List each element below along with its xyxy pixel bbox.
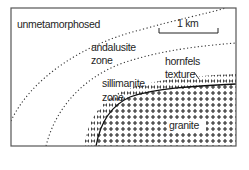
- label-sillimanite-zone: zone: [102, 91, 124, 103]
- label-unmetamorphosed: unmetamorphosed: [17, 18, 101, 30]
- label-texture: texture: [165, 68, 195, 80]
- scale-bar-label: 1 km: [177, 17, 199, 29]
- contact-metamorphism-diagram: unmetamorphosed andalusite zone silliman…: [0, 0, 249, 170]
- label-sillimanite: sillimanite: [102, 77, 145, 89]
- label-hornfels: hornfels: [165, 55, 200, 67]
- scale-bar: 1 km: [159, 17, 218, 33]
- label-andalusite: andalusite: [91, 41, 136, 53]
- label-granite: granite: [169, 119, 199, 131]
- label-andalusite-zone: zone: [91, 54, 113, 66]
